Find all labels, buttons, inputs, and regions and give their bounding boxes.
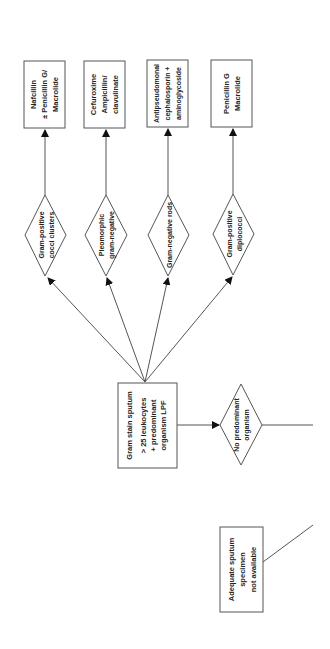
gn-rods-line1: Gram-negative rods xyxy=(166,202,174,268)
no-predominant-diamond: No predominant organism xyxy=(220,384,262,465)
pleomorphic-diamond: Pleomorphic gram-negative xyxy=(85,195,127,276)
gram-stain-box: Gram stain sputum > 25 leukocytes + pred… xyxy=(118,383,177,468)
gp-diplococci-diamond: Gram-positive diplococci xyxy=(213,194,254,275)
start-line2: specimen xyxy=(238,552,247,587)
tx-antipseudomonal-line1: Antipseudomonal xyxy=(153,64,161,123)
tx-cefuroxime-line3: clavulinate xyxy=(111,75,120,114)
gram-stain-line4: organism LPF xyxy=(159,400,168,450)
gp-clusters-line2: cocci clusters xyxy=(48,212,55,259)
gp-diplococci-line1: Gram-positive xyxy=(226,210,234,257)
tx-cefuroxime-line2: Ampicillin/ xyxy=(100,75,109,114)
no-predominant-line1: No predominant xyxy=(233,398,241,452)
organism-arrows xyxy=(48,277,232,382)
tx-antipseudomonal-line2: cephalosporin + xyxy=(164,67,172,121)
treatment-arrows xyxy=(45,129,233,195)
gp-diplococci-line2: diplococci xyxy=(236,217,244,252)
start-connector-line xyxy=(263,525,313,562)
flowchart: Nafcillin ± Penicillin G/ Macrolide Cefu… xyxy=(0,0,330,649)
tx-nafcillin-line1: Nafcillin xyxy=(29,80,38,110)
tx-nafcillin-line2: ± Penicillin G/ xyxy=(40,69,49,119)
tx-cefuroxime-line1: Cefuroxime xyxy=(89,74,98,115)
tx-antipseudomonal-box: Antipseudomonal cephalosporin + aminogly… xyxy=(147,60,188,127)
gp-clusters-diamond: Gram-positive cocci clusters xyxy=(25,195,66,276)
tx-nafcillin-line3: Macrolide xyxy=(51,77,60,112)
gram-stain-line3: + predominant xyxy=(149,399,158,451)
tx-cefuroxime-box: Cefuroxime Ampicillin/ clavulinate xyxy=(84,61,125,128)
gp-clusters-line1: Gram-positive xyxy=(38,211,46,258)
tx-antipseudomonal-line3: aminoglycoside xyxy=(175,67,183,120)
gram-stain-line1: Gram stain sputum xyxy=(125,391,134,460)
pleomorphic-line2: gram-negative xyxy=(108,211,116,259)
tx-penicillin-box: Penicillin G Macrolide xyxy=(211,60,252,127)
tx-penicillin-line2: Macrolide xyxy=(233,76,242,111)
no-predominant-line2: organism xyxy=(243,409,251,441)
tx-penicillin-line1: Penicillin G xyxy=(222,73,231,114)
gram-stain-line2: > 25 leukocytes xyxy=(139,398,148,454)
start-line1: Adequate sputum xyxy=(227,538,236,602)
tx-nafcillin-box: Nafcillin ± Penicillin G/ Macrolide xyxy=(24,61,65,128)
pleomorphic-line1: Pleomorphic xyxy=(98,214,106,257)
start-line3: not available xyxy=(249,547,258,592)
start-box: Adequate sputum specimen not available xyxy=(220,527,263,612)
gn-rods-diamond: Gram-negative rods xyxy=(148,195,189,276)
